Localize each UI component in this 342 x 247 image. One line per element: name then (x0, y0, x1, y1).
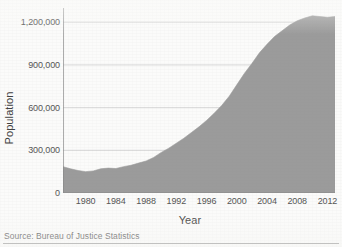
x-axis-tick-label: 1992 (159, 196, 193, 206)
source-note: Source: Bureau of Justice Statistics (4, 231, 140, 241)
y-axis-title: Population (3, 83, 15, 153)
x-axis-tick-label: 1984 (99, 196, 133, 206)
x-axis-tick-label: 2012 (310, 196, 342, 206)
y-axis-tick-label: 300,000 (28, 145, 60, 155)
x-axis-tick-label: 2004 (250, 196, 284, 206)
x-axis-title: Year (170, 214, 210, 226)
y-axis-tick-label: 0 (55, 188, 60, 198)
y-axis-tick-label: 900,000 (28, 60, 60, 70)
x-axis-tick-label: 1980 (69, 196, 103, 206)
x-axis-tick-label: 1996 (190, 196, 224, 206)
population-area-series (63, 16, 335, 193)
x-axis-tick-label: 1988 (129, 196, 163, 206)
x-axis-tick-label: 2008 (280, 196, 314, 206)
y-axis-tick-label: 600,000 (28, 103, 60, 113)
footer-divider (3, 243, 339, 244)
y-axis-tick-label: 1,200,000 (21, 17, 60, 27)
x-axis-tick-label: 2000 (220, 196, 254, 206)
plot-area (63, 8, 335, 193)
chart-figure: 0300,000600,000900,0001,200,000 Populati… (0, 0, 342, 247)
